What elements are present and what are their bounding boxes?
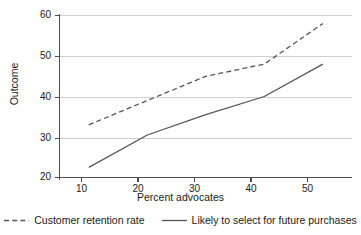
y-axis-title: Outcome bbox=[8, 48, 20, 120]
dashed-line-icon bbox=[4, 215, 29, 225]
y-tick-label-50: 50 bbox=[25, 50, 51, 61]
x-tick-marks bbox=[82, 178, 308, 182]
y-tick-marks bbox=[55, 16, 59, 178]
legend-label-customer-retention-rate: Customer retention rate bbox=[34, 214, 144, 226]
legend-item-customer-retention-rate: Customer retention rate bbox=[4, 214, 144, 226]
legend-label-likely-to-select: Likely to select for future purchases bbox=[192, 214, 357, 226]
line-chart: 60 50 40 30 20 10 20 30 40 50 Outcome Pe… bbox=[0, 0, 361, 235]
series-line-likely-to-select bbox=[89, 64, 323, 167]
series-line-customer-retention-rate bbox=[89, 24, 323, 125]
solid-line-icon bbox=[162, 215, 187, 225]
y-tick-label-60: 60 bbox=[25, 9, 51, 20]
y-tick-label-20: 20 bbox=[25, 171, 51, 182]
y-tick-label-40: 40 bbox=[25, 91, 51, 102]
chart-legend: Customer retention rate Likely to select… bbox=[0, 214, 361, 226]
y-tick-label-30: 30 bbox=[25, 132, 51, 143]
legend-item-likely-to-select: Likely to select for future purchases bbox=[162, 214, 357, 226]
x-axis-title: Percent advocates bbox=[0, 191, 361, 203]
